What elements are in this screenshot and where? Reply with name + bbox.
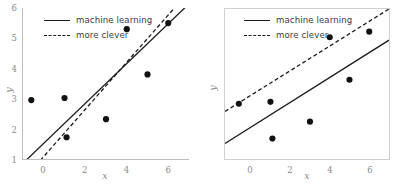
y-tick-label: 5 [12, 33, 17, 43]
x-tick-label: 4 [327, 165, 332, 175]
x-tick-label: 2 [287, 165, 292, 175]
x-tick-label: 6 [367, 165, 372, 175]
y-tick-label: 2 [12, 125, 17, 135]
data-point [269, 136, 275, 142]
data-point [236, 101, 242, 107]
x-tick-label: 0 [40, 165, 45, 175]
legend-label-machine-learning: machine learning [276, 15, 352, 25]
legend-item-machine-learning: machine learning [44, 14, 152, 25]
x-tick-label: 2 [82, 165, 87, 175]
legend-item-more-clever: more clever [244, 29, 352, 40]
data-point [28, 97, 34, 103]
x-tick-label: 0 [247, 165, 252, 175]
data-point [165, 20, 171, 26]
x-axis-label-right: x [304, 170, 309, 181]
chart-panel-right: 0246 machine learning more clever x y [200, 0, 400, 193]
legend-item-machine-learning: machine learning [244, 14, 352, 25]
figure-canvas: 0246123456 machine learning more clever … [0, 0, 400, 193]
data-point [61, 95, 67, 101]
data-point [307, 119, 313, 125]
data-point [346, 77, 352, 83]
data-point [103, 116, 109, 122]
legend-right: machine learning more clever [244, 14, 352, 40]
y-tick-label: 3 [12, 94, 17, 104]
y-tick-label: 4 [12, 64, 17, 74]
y-tick-label: 6 [12, 3, 17, 13]
series-line-solid [225, 40, 389, 143]
legend-label-more-clever: more clever [276, 30, 328, 40]
data-point [366, 29, 372, 35]
data-point [144, 71, 150, 77]
x-axis-label-left: x [102, 170, 107, 181]
y-tick-label: 1 [12, 155, 17, 165]
data-point [267, 99, 273, 105]
data-point [63, 134, 69, 140]
legend-left: machine learning more clever [44, 14, 152, 40]
x-tick-label: 6 [165, 165, 170, 175]
legend-label-machine-learning: machine learning [76, 15, 152, 25]
legend-item-more-clever: more clever [44, 29, 152, 40]
chart-panel-left: 0246123456 machine learning more clever … [0, 0, 200, 193]
x-tick-label: 4 [124, 165, 129, 175]
legend-label-more-clever: more clever [76, 30, 128, 40]
y-axis-label-left: y [3, 87, 14, 92]
y-axis-label-right: y [207, 85, 218, 90]
